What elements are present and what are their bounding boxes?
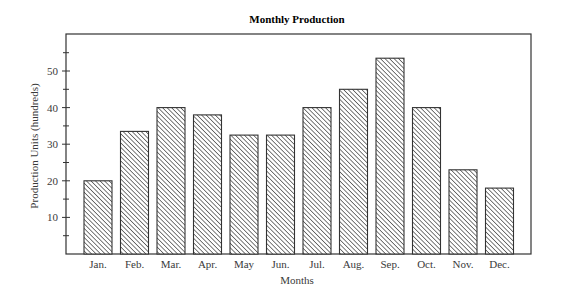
bar-may	[230, 135, 258, 254]
bar-mar	[157, 108, 185, 254]
y-tick-label: 30	[47, 138, 59, 150]
x-tick-label: Jan.	[89, 258, 107, 270]
x-tick-label: Aug.	[343, 258, 365, 270]
x-axis-labels: Jan.Feb.Mar.Apr.MayJun.Jul.Aug.Sep.Oct.N…	[89, 258, 510, 270]
x-tick-label: Jun.	[271, 258, 289, 270]
y-tick-label: 20	[47, 175, 59, 187]
x-tick-label: Sep.	[380, 258, 400, 270]
bars-group	[84, 58, 514, 254]
x-tick-label: Dec.	[489, 258, 510, 270]
y-axis-title: Production Units (hundreds)	[28, 83, 41, 209]
bar-dec	[486, 188, 514, 254]
x-tick-label: Apr.	[198, 258, 218, 270]
y-tick-label: 10	[47, 211, 59, 223]
bar-sep	[376, 58, 404, 254]
bar-apr	[194, 115, 222, 254]
bar-aug	[340, 89, 368, 254]
x-tick-label: Nov.	[453, 258, 474, 270]
x-tick-label: Mar.	[161, 258, 182, 270]
bar-oct	[413, 108, 441, 254]
y-tick-label: 50	[47, 65, 59, 77]
x-tick-label: May	[234, 258, 255, 270]
x-tick-label: Oct.	[417, 258, 436, 270]
bar-chart: Monthly Production 1020304050 Jan.Feb.Ma…	[0, 0, 562, 296]
bar-feb	[121, 131, 149, 254]
bar-nov	[449, 170, 477, 254]
bar-jan	[84, 181, 112, 254]
x-tick-label: Feb.	[125, 258, 145, 270]
y-tick-label: 40	[47, 102, 59, 114]
chart-title: Monthly Production	[249, 13, 344, 25]
x-axis-title: Months	[280, 274, 314, 286]
bar-jul	[303, 108, 331, 254]
x-tick-label: Jul.	[309, 258, 325, 270]
bar-jun	[267, 135, 295, 254]
